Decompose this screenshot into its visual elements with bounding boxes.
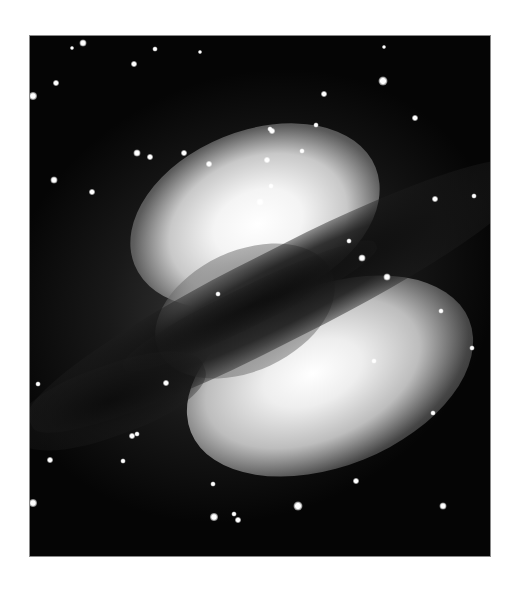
star xyxy=(29,499,37,507)
star xyxy=(70,46,74,50)
star xyxy=(379,77,388,86)
star xyxy=(131,61,137,67)
galaxy-photograph xyxy=(29,35,491,557)
star xyxy=(431,411,436,416)
star xyxy=(294,502,303,511)
star xyxy=(347,239,352,244)
star xyxy=(300,149,305,154)
star xyxy=(36,382,41,387)
star xyxy=(235,517,241,523)
star xyxy=(47,457,53,463)
star xyxy=(210,513,218,521)
star xyxy=(198,50,202,54)
star xyxy=(153,47,158,52)
star xyxy=(432,196,438,202)
star xyxy=(134,150,141,157)
star xyxy=(29,92,37,100)
star xyxy=(382,45,386,49)
star xyxy=(232,512,237,517)
star xyxy=(359,255,366,262)
star xyxy=(51,177,58,184)
star xyxy=(470,346,475,351)
star xyxy=(269,184,274,189)
star xyxy=(268,127,273,132)
star xyxy=(321,91,327,97)
star xyxy=(319,557,324,558)
star xyxy=(314,123,319,128)
star xyxy=(147,154,153,160)
star xyxy=(257,199,264,206)
star xyxy=(372,359,377,364)
star xyxy=(53,80,59,86)
star xyxy=(384,274,391,281)
star xyxy=(353,478,359,484)
star xyxy=(163,380,169,386)
star xyxy=(206,161,212,167)
star xyxy=(472,194,477,199)
star xyxy=(439,309,444,314)
star xyxy=(181,150,187,156)
star xyxy=(89,189,95,195)
star xyxy=(264,157,270,163)
star xyxy=(211,482,216,487)
star xyxy=(216,292,221,297)
star xyxy=(440,503,447,510)
star xyxy=(121,459,126,464)
star xyxy=(80,40,87,47)
star xyxy=(135,432,140,437)
star xyxy=(412,115,418,121)
